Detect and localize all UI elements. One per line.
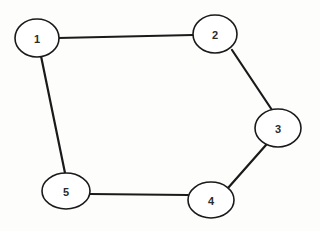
graph-node-5: 5: [42, 173, 90, 209]
node-label-1: 1: [34, 33, 40, 45]
graph-edge-4-5: [90, 194, 188, 195]
graph-node-3: 3: [255, 109, 301, 147]
node-label-3: 3: [275, 123, 281, 135]
nodes-layer: 12345: [15, 15, 301, 218]
graph-node-2: 2: [193, 15, 237, 53]
node-label-4: 4: [208, 195, 215, 207]
edges-layer: [41, 35, 272, 195]
graph-edge-2-3: [232, 50, 272, 110]
diagram-canvas: 12345: [0, 0, 320, 231]
node-label-2: 2: [212, 29, 218, 41]
graph-node-4: 4: [188, 182, 234, 218]
node-label-5: 5: [63, 186, 69, 198]
graph-node-1: 1: [15, 19, 59, 57]
graph-edge-3-4: [228, 145, 266, 188]
graph-edge-5-1: [41, 56, 65, 173]
graph-diagram: 12345: [0, 0, 320, 231]
graph-edge-1-2: [58, 35, 193, 38]
